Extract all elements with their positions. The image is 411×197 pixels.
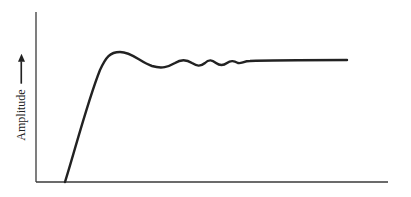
plot-area [0, 0, 411, 197]
arrow-up-icon [20, 59, 21, 83]
y-axis-label: Amplitude [14, 59, 29, 140]
y-axis-label-text: Amplitude [14, 89, 29, 140]
response-curve [65, 52, 347, 182]
step-response-figure: Amplitude [0, 0, 411, 197]
